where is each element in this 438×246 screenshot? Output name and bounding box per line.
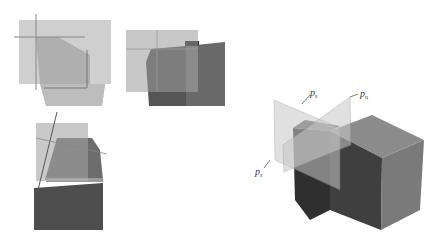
label-upper-plane: ps <box>309 87 318 99</box>
leader-upper <box>302 95 310 104</box>
label-right-plane: pu <box>359 88 368 100</box>
panel-bottom-left <box>34 112 107 230</box>
leader-right <box>350 94 358 97</box>
panel-right: ps pu ps <box>254 87 424 230</box>
panel-top-left <box>14 14 111 106</box>
plane-overlay <box>126 30 198 92</box>
plane-overlay <box>36 123 88 181</box>
lower-region <box>42 84 105 106</box>
label-lower-plane: ps <box>254 166 263 178</box>
block-lower <box>34 183 103 230</box>
leader-lower <box>264 160 270 168</box>
figure-canvas: ps pu ps <box>0 0 438 246</box>
panel-top-middle <box>126 30 225 106</box>
